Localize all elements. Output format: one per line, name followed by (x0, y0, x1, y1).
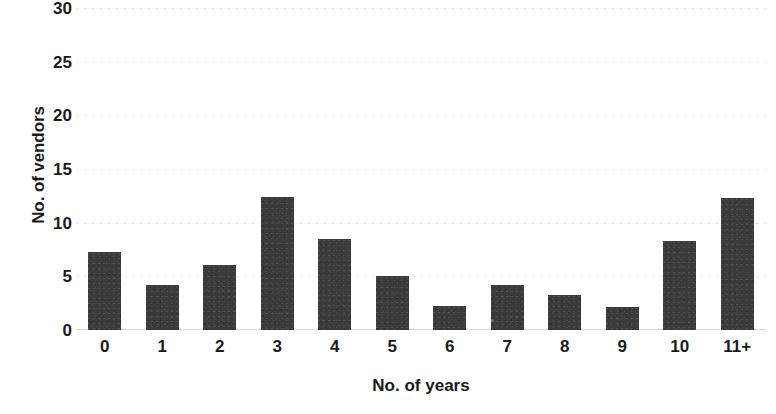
bar (318, 239, 351, 330)
x-axis-tick-label: 8 (560, 336, 569, 358)
scan-artifact-speck (491, 319, 494, 322)
plot-area (76, 8, 766, 330)
y-axis-tick-label: 0 (30, 322, 72, 339)
y-axis-tick-label: 5 (30, 268, 72, 285)
y-axis-tick-label: 10 (30, 214, 72, 231)
bar-chart: No. of vendors 051015202530 012345678910… (0, 0, 776, 414)
bar (376, 276, 409, 330)
bar (606, 307, 639, 330)
bar (146, 285, 179, 330)
x-axis-tick-label: 10 (670, 336, 689, 358)
bar (721, 198, 754, 330)
x-axis-tick-labels: 01234567891011+ (76, 336, 766, 362)
x-axis-tick-label: 11+ (723, 336, 751, 358)
bar (663, 241, 696, 330)
x-axis-tick-label: 0 (100, 336, 109, 358)
x-axis-tick-label: 7 (503, 336, 512, 358)
bar (88, 252, 121, 330)
x-axis-tick-label: 9 (618, 336, 627, 358)
y-axis-tick-label: 30 (30, 0, 72, 17)
y-axis-tick-labels: 051015202530 (30, 0, 72, 345)
x-axis-tick-label: 2 (215, 336, 224, 358)
bar (491, 285, 524, 330)
bar-series (76, 8, 766, 330)
bar (433, 306, 466, 330)
x-axis-tick-label: 4 (330, 336, 339, 358)
x-axis-tick-label: 3 (273, 336, 282, 358)
x-axis-title: No. of years (76, 376, 766, 396)
x-axis-tick-label: 5 (388, 336, 397, 358)
bar (261, 197, 294, 330)
x-axis-tick-label: 1 (158, 336, 167, 358)
y-axis-tick-label: 15 (30, 161, 72, 178)
x-axis-tick-label: 6 (445, 336, 454, 358)
y-axis-tick-label: 25 (30, 53, 72, 70)
bar (203, 265, 236, 330)
bar (548, 295, 581, 330)
y-axis-tick-label: 20 (30, 107, 72, 124)
